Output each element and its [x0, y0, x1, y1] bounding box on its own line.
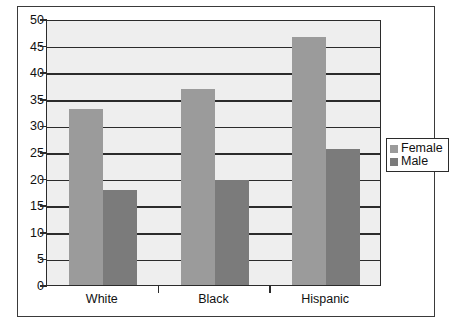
bar-white-female: [69, 109, 103, 285]
bar-black-male: [215, 180, 249, 285]
y-axis-tick: [40, 99, 47, 101]
y-axis-tick: [40, 285, 47, 287]
cut-off-caption: ____ ____ __ ___: [18, 322, 218, 330]
bar-group-container: [47, 21, 380, 285]
y-axis-tick: [40, 205, 47, 207]
y-axis-tick: [40, 46, 47, 48]
bar-hispanic-male: [326, 149, 360, 285]
bar-hispanic-female: [292, 37, 326, 285]
chart-page: 05101520253035404550 WhiteBlackHispanic …: [0, 0, 453, 331]
y-axis-tick: [40, 126, 47, 128]
y-axis-tick: [40, 19, 47, 21]
x-axis-separator: [269, 286, 271, 293]
bar-black-female: [181, 89, 215, 285]
y-axis-tick: [40, 232, 47, 234]
plot-area: [46, 20, 381, 286]
y-axis-tick: [40, 179, 47, 181]
x-axis-label-white: White: [86, 292, 118, 306]
chart-legend: FemaleMale: [386, 138, 449, 172]
legend-label: Male: [401, 155, 428, 168]
y-axis-tick: [40, 259, 47, 261]
legend-swatch-icon: [390, 145, 398, 153]
legend-item-male[interactable]: Male: [390, 155, 443, 168]
y-axis-tick: [40, 152, 47, 154]
x-axis-separator: [158, 286, 160, 293]
y-axis-tick: [40, 72, 47, 74]
bar-white-male: [103, 190, 137, 285]
legend-swatch-icon: [390, 158, 398, 166]
x-axis-label-black: Black: [198, 292, 229, 306]
x-axis-label-hispanic: Hispanic: [301, 292, 349, 306]
x-axis-labels: WhiteBlackHispanic: [46, 292, 381, 312]
